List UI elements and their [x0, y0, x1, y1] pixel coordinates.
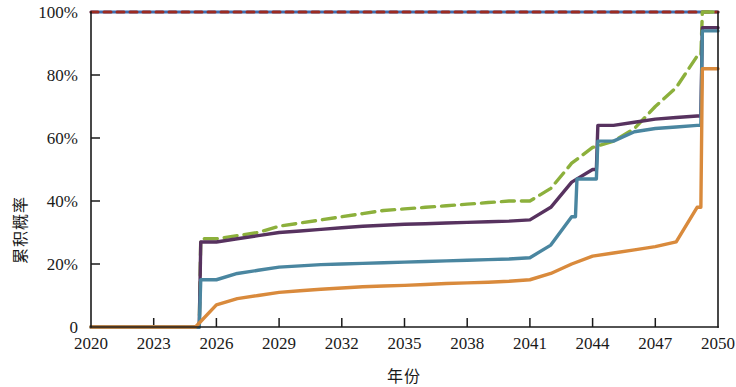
y-tick-label: 100% [38, 3, 78, 22]
x-tick-label: 2023 [137, 334, 171, 353]
series-purple [91, 28, 718, 327]
x-tick-label-group: 2020202320262029203220352038204120442047… [74, 334, 735, 353]
y-axis-title: 累积概率 [11, 196, 30, 264]
cumulative-probability-chart: 累积概率 年份 020%40%60%80%100% 20202023202620… [0, 0, 736, 387]
x-tick-label: 2035 [388, 334, 422, 353]
series-orange [91, 69, 718, 327]
x-tick-label: 2029 [262, 334, 296, 353]
y-tick-label: 80% [47, 66, 78, 85]
x-tick-mark-group [154, 318, 656, 327]
y-tick-label: 40% [47, 192, 78, 211]
x-tick-label: 2050 [701, 334, 735, 353]
y-tick-label-group: 020%40%60%80%100% [38, 3, 78, 337]
y-tick-mark-group [91, 12, 100, 264]
x-tick-label: 2032 [325, 334, 359, 353]
y-tick-label: 20% [47, 255, 78, 274]
x-axis-title: 年份 [387, 367, 421, 386]
x-tick-label: 2047 [638, 334, 673, 353]
x-tick-label: 2026 [199, 334, 233, 353]
series-steelblue [91, 31, 718, 327]
chart-svg: 累积概率 年份 020%40%60%80%100% 20202023202620… [0, 0, 736, 387]
x-tick-label: 2044 [576, 334, 611, 353]
x-tick-label: 2020 [74, 334, 108, 353]
x-tick-label: 2038 [450, 334, 484, 353]
x-tick-label: 2041 [513, 334, 547, 353]
y-tick-label: 60% [47, 129, 78, 148]
series-group [91, 12, 718, 327]
series-green [91, 12, 718, 327]
